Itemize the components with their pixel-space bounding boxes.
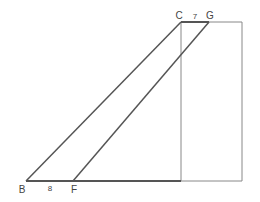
label-bf-length: 8 — [48, 184, 53, 193]
segment-bc — [26, 22, 181, 181]
label-g: G — [206, 10, 214, 21]
label-f: F — [71, 184, 77, 195]
segment-fg — [73, 22, 209, 181]
geometry-diagram: C 7 G B 8 F — [0, 0, 260, 202]
label-b: B — [19, 184, 26, 195]
label-cg-length: 7 — [193, 12, 198, 21]
label-c: C — [175, 10, 182, 21]
